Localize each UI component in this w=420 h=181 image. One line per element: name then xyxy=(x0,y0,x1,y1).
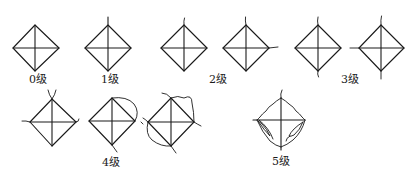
grade-2-diamond-a xyxy=(161,18,207,71)
grade-3-diamond-b xyxy=(350,16,404,79)
grade-1-label: 1级 xyxy=(101,74,119,86)
grade-5-diamond xyxy=(253,90,305,150)
grade-0-label: 0级 xyxy=(29,74,47,86)
grade-0-diamond xyxy=(13,25,59,71)
grade-1-diamond xyxy=(85,17,131,71)
grade-4-diamond-a xyxy=(22,90,79,146)
diagram-canvas xyxy=(0,0,420,181)
grade-2-diamond-b xyxy=(223,17,278,71)
grade-2-label: 2级 xyxy=(209,74,227,86)
grade-4-diamond-b xyxy=(89,98,143,152)
grade-5-label: 5级 xyxy=(272,156,290,168)
grade-3-label: 3级 xyxy=(341,74,359,86)
grade-3-diamond-a xyxy=(295,17,341,77)
grade-4-label: 4级 xyxy=(102,157,120,169)
grade-diagram: 0级 1级 2级 3级 4级 5级 xyxy=(0,0,420,181)
grade-4-diamond-c xyxy=(143,93,201,153)
